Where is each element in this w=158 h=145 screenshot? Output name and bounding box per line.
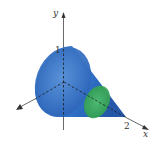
cone-solid [25,39,126,125]
y-axis-arrow-icon [62,12,66,18]
z-axis-arrow-icon [16,104,23,110]
z-axis [16,99,35,110]
x-axis-label: x [143,129,148,139]
y-tick-1: 1 [55,45,61,55]
y-axis-label: y [52,8,59,18]
cone-diagram: y 1 2 x [0,0,158,145]
x-tick-2: 2 [124,121,130,131]
